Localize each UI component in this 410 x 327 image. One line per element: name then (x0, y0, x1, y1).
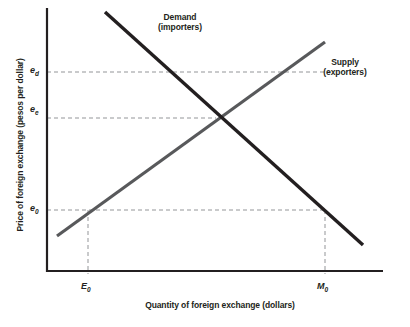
foreign-exchange-market-chart: Price of foreign exchange (pesos per dol… (0, 0, 410, 327)
demand-curve (105, 12, 363, 245)
chart-plot-area (0, 0, 410, 327)
y-tick-e0-subscript: 0 (35, 208, 39, 215)
x-tick-E0-subscript: 0 (87, 286, 91, 293)
y-axis-title: Price of foreign exchange (pesos per dol… (16, 50, 26, 240)
y-tick-ee-subscript: e (35, 109, 39, 116)
x-tick-M0-symbol: M (317, 281, 325, 291)
x-tick-M0-subscript: 0 (325, 286, 329, 293)
supply-label-line1: Supply (331, 57, 359, 67)
x-axis-title: Quantity of foreign exchange (dollars) (60, 301, 380, 311)
demand-label-line1: Demand (164, 12, 197, 22)
x-tick-label-E0: E0 (81, 281, 91, 293)
supply-curve-label: Supply (exporters) (305, 58, 385, 78)
y-tick-label-e0: e0 (30, 203, 39, 215)
x-tick-label-M0: M0 (317, 281, 328, 293)
y-tick-label-ee: ee (30, 104, 39, 116)
demand-label-line2: (importers) (158, 22, 202, 32)
supply-curve (57, 42, 325, 236)
demand-curve-label: Demand (importers) (140, 13, 220, 33)
guide-lines (47, 72, 331, 274)
y-tick-ed-subscript: d (35, 70, 39, 77)
y-tick-label-ed: ed (30, 65, 39, 77)
chart-axes (46, 8, 383, 272)
supply-label-line2: (exporters) (323, 67, 366, 77)
